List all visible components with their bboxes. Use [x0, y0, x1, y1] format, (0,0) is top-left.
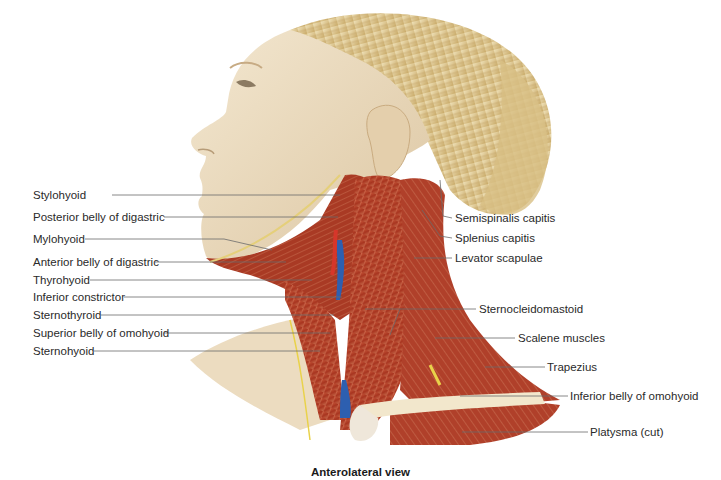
label-posterior-belly-of-digastric: Posterior belly of digastric: [33, 211, 165, 224]
label-levator-scapulae: Levator scapulae: [455, 252, 543, 265]
label-trapezius: Trapezius: [547, 361, 597, 374]
label-sternocleidomastoid: Sternocleidomastoid: [479, 303, 583, 316]
label-inferior-constrictor: Inferior constrictor: [33, 291, 125, 304]
label-scalene-muscles: Scalene muscles: [518, 332, 605, 345]
label-anterior-belly-of-digastric: Anterior belly of digastric: [33, 256, 159, 269]
label-mylohyoid: Mylohyoid: [33, 233, 85, 246]
label-splenius-capitis: Splenius capitis: [455, 232, 535, 245]
label-semispinalis-capitis: Semispinalis capitis: [455, 212, 555, 225]
label-superior-belly-of-omohyoid: Superior belly of omohyoid: [33, 327, 169, 340]
figure-caption: Anterolateral view: [0, 466, 721, 478]
label-inferior-belly-of-omohyoid: Inferior belly of omohyoid: [570, 390, 698, 403]
label-sternothyroid: Sternothyroid: [33, 309, 101, 322]
label-stylohyoid: Stylohyoid: [33, 189, 86, 202]
neck-muscles-illustration: [0, 0, 721, 480]
label-thyrohyoid: Thyrohyoid: [33, 274, 90, 287]
label-sternohyoid: Sternohyoid: [33, 345, 94, 358]
label-platysma-cut: Platysma (cut): [590, 426, 664, 439]
